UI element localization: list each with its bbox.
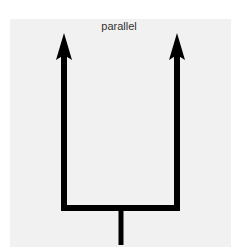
parallel-fork-diagram xyxy=(0,0,238,251)
fork-lines xyxy=(64,52,177,245)
